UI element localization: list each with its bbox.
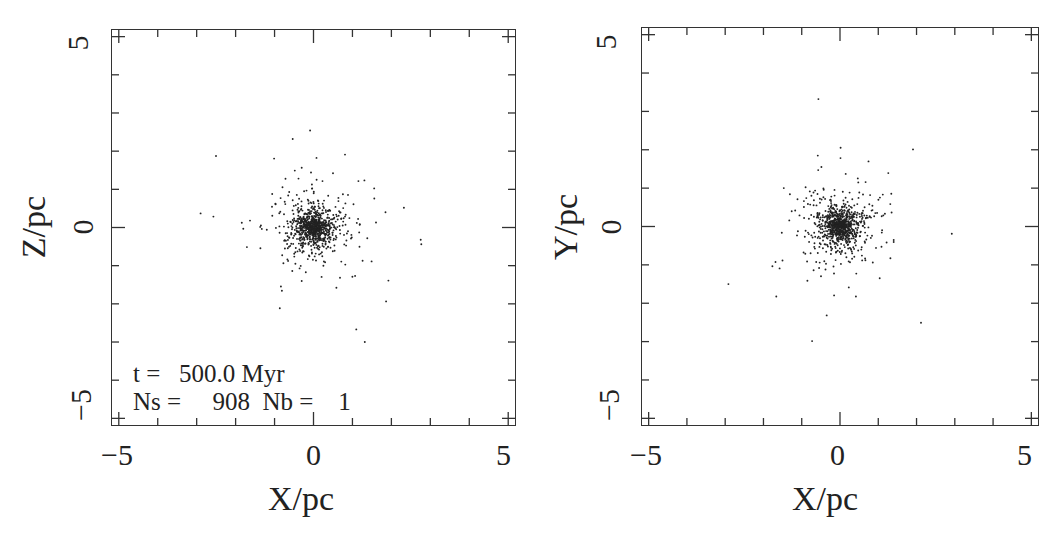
right-ytick-5: 5 (591, 35, 621, 50)
left-xtick-0: 0 (306, 440, 321, 470)
right-ylabel: Y/pc (549, 194, 583, 260)
right-ytick-neg5: −5 (594, 389, 624, 421)
left-annotation-time: t = 500.0 Myr (133, 361, 285, 386)
left-xtick-neg5: −5 (101, 440, 133, 470)
left-ytick-0: 0 (68, 220, 98, 235)
right-xtick-5: 5 (1017, 440, 1032, 470)
right-ytick-0: 0 (596, 220, 626, 235)
left-annotation-counts: Ns = 908 Nb = 1 (133, 389, 351, 414)
right-xtick-0: 0 (830, 440, 845, 470)
left-ytick-neg5: −5 (66, 389, 96, 421)
right-plot-frame (641, 27, 1039, 426)
right-xtick-neg5: −5 (630, 440, 662, 470)
left-ytick-5: 5 (63, 36, 93, 51)
left-ylabel: Z/pc (17, 196, 51, 258)
left-xtick-5: 5 (496, 440, 511, 470)
left-xlabel: X/pc (268, 482, 334, 516)
right-xlabel: X/pc (792, 482, 858, 516)
